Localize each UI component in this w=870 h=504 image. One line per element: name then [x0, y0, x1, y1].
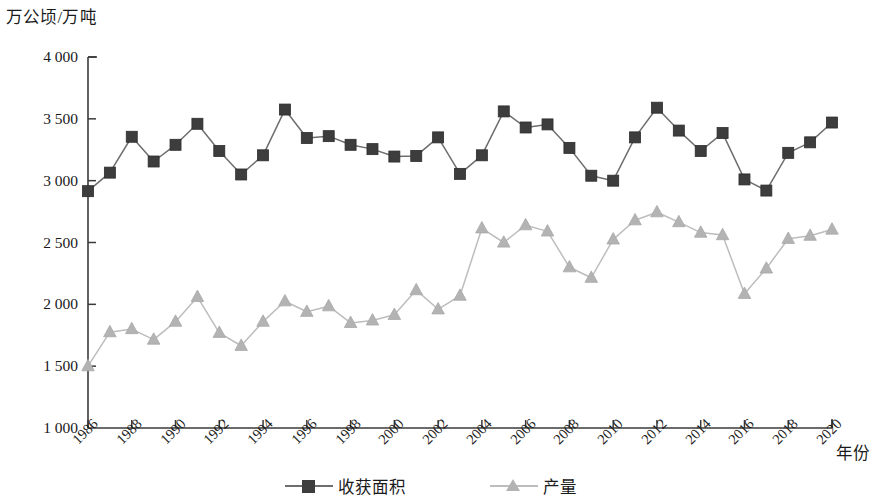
- series-1: [83, 102, 838, 196]
- data-point-marker: [213, 326, 226, 337]
- y-axis-tick-label: 2 000: [12, 295, 78, 313]
- data-point-marker: [783, 147, 794, 158]
- y-axis-tick-label: 2 500: [12, 234, 78, 252]
- data-point-marker: [279, 104, 290, 115]
- data-point-marker: [564, 142, 575, 153]
- x-axis-title: 年份: [836, 440, 870, 464]
- data-point-marker: [389, 151, 400, 162]
- data-point-marker: [717, 128, 728, 139]
- data-point-marker: [236, 169, 247, 180]
- data-point-marker: [608, 175, 619, 186]
- data-point-marker: [607, 233, 620, 244]
- data-point-marker: [83, 186, 94, 197]
- series-2: [82, 205, 839, 370]
- data-point-marker: [455, 168, 466, 179]
- data-point-marker: [191, 290, 204, 301]
- data-point-marker: [257, 315, 270, 326]
- data-point-marker: [214, 145, 225, 156]
- y-axis-tick-label: 4 000: [12, 48, 78, 66]
- data-point-marker: [695, 145, 706, 156]
- data-point-marker: [563, 260, 576, 271]
- legend-triangle-icon: [490, 478, 538, 494]
- legend-marker: [506, 479, 520, 491]
- data-point-marker: [585, 271, 598, 282]
- y-axis-tick-label: 3 500: [12, 110, 78, 128]
- data-point-marker: [651, 102, 662, 113]
- data-point-marker: [498, 236, 511, 247]
- data-point-marker: [148, 156, 159, 167]
- data-point-marker: [432, 302, 445, 313]
- data-point-marker: [147, 333, 160, 344]
- data-point-marker: [104, 167, 115, 178]
- data-point-marker: [192, 118, 203, 129]
- data-point-marker: [586, 170, 597, 181]
- data-point-marker: [279, 294, 292, 305]
- y-axis-tick-label: 1 000: [12, 419, 78, 437]
- legend-item[interactable]: 产量: [490, 474, 577, 498]
- data-point-marker: [411, 150, 422, 161]
- y-axis-tick-label: 3 000: [12, 172, 78, 190]
- data-point-marker: [761, 185, 772, 196]
- data-point-marker: [651, 205, 664, 216]
- legend-label: 收获面积: [338, 474, 406, 498]
- data-point-marker: [476, 221, 489, 232]
- data-point-marker: [520, 122, 531, 133]
- data-point-marker: [827, 117, 838, 128]
- data-point-marker: [323, 131, 334, 142]
- data-point-marker: [630, 132, 641, 143]
- data-point-marker: [826, 223, 839, 234]
- legend-label: 产量: [543, 474, 577, 498]
- legend-marker: [302, 480, 315, 493]
- data-point-marker: [476, 150, 487, 161]
- data-point-marker: [673, 215, 686, 226]
- data-point-marker: [126, 322, 139, 333]
- data-point-marker: [454, 289, 467, 300]
- data-point-marker: [126, 131, 137, 142]
- data-point-marker: [82, 359, 95, 370]
- data-point-marker: [258, 150, 269, 161]
- data-point-marker: [694, 226, 707, 237]
- data-point-marker: [498, 106, 509, 117]
- data-point-marker: [301, 133, 312, 144]
- chart-legend: 收获面积产量: [0, 474, 861, 498]
- data-point-marker: [410, 283, 423, 294]
- legend-item[interactable]: 收获面积: [285, 474, 406, 498]
- data-point-marker: [519, 218, 532, 229]
- data-point-marker: [805, 137, 816, 148]
- data-point-marker: [345, 139, 356, 150]
- data-point-marker: [542, 119, 553, 130]
- data-point-marker: [433, 132, 444, 143]
- y-axis-tick-label: 1 500: [12, 357, 78, 375]
- data-point-marker: [367, 144, 378, 155]
- legend-square-icon: [285, 478, 333, 494]
- data-point-marker: [322, 299, 335, 310]
- data-point-marker: [170, 139, 181, 150]
- data-point-marker: [739, 174, 750, 185]
- data-point-marker: [673, 125, 684, 136]
